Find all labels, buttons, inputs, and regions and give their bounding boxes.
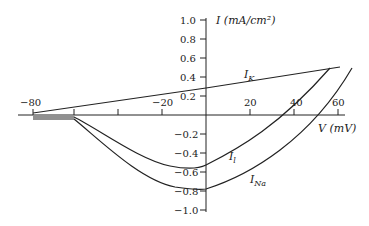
y-tick-m0.4: −0.4 xyxy=(174,148,198,159)
y-tick-0.8: 0.8 xyxy=(180,34,196,45)
il-label: Il xyxy=(228,150,236,165)
y-tick-0.4: 0.4 xyxy=(180,72,196,83)
ina-label: INa xyxy=(249,173,266,188)
y-tick-0.6: 0.6 xyxy=(180,53,196,64)
x-ticks xyxy=(33,109,338,115)
x-tick-20: 20 xyxy=(244,97,257,108)
y-tick-m1.0: −1.0 xyxy=(174,205,198,216)
ik-label: IK xyxy=(243,68,255,83)
y-tick-0.2: 0.2 xyxy=(180,91,196,102)
y-tick-1.0: 1.0 xyxy=(180,15,196,26)
y-axis-label: I (mA/cm²) xyxy=(215,14,276,27)
x-axis-label: V (mV) xyxy=(318,122,356,135)
y-tick-m0.2: −0.2 xyxy=(174,129,198,140)
x-tick-60: 60 xyxy=(332,97,345,108)
iv-chart: −80 −20 20 40 60 1.0 0.8 0.6 0.4 0.2 −0.… xyxy=(0,0,369,226)
x-tick-m80: −80 xyxy=(20,97,41,108)
x-tick-m20: −20 xyxy=(152,97,173,108)
